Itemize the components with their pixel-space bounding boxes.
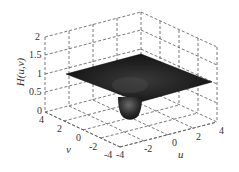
z-axis-label: H(u,v) — [14, 58, 26, 86]
z-tick: 1 — [37, 69, 42, 79]
v-axis-label: v — [66, 143, 71, 155]
surface-plane — [66, 54, 212, 102]
u-tick: -2 — [144, 144, 152, 154]
u-tick: -4 — [116, 150, 124, 160]
u-axis-label: u — [178, 148, 184, 160]
u-tick: 4 — [219, 126, 224, 136]
v-tick: -2 — [89, 142, 97, 152]
v-tick: 2 — [57, 124, 62, 134]
surface-dip — [118, 97, 142, 120]
v-tick: -4 — [104, 150, 112, 160]
surface — [66, 54, 212, 120]
u-tick: 2 — [196, 132, 201, 142]
z-tick: 0.5 — [29, 87, 42, 97]
u-tick: 0 — [172, 138, 177, 148]
z-tick: 1.5 — [29, 50, 42, 60]
v-tick: 4 — [39, 115, 44, 125]
v-tick: 0 — [76, 133, 81, 143]
z-tick: 2 — [35, 32, 40, 42]
